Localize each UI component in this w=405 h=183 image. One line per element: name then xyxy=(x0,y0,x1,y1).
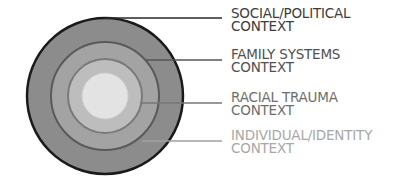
family-systems-label: FAMILY SYSTEMS CONTEXT xyxy=(231,48,340,73)
label-line-2: CONTEXT xyxy=(231,20,350,33)
context-diagram: SOCIAL/POLITICAL CONTEXT FAMILY SYSTEMS … xyxy=(0,0,405,183)
label-line-2: CONTEXT xyxy=(231,104,338,117)
label-line-2: CONTEXT xyxy=(231,142,372,155)
social-political-label: SOCIAL/POLITICAL CONTEXT xyxy=(231,7,350,32)
racial-trauma-label: RACIAL TRAUMA CONTEXT xyxy=(231,91,338,116)
label-line-2: CONTEXT xyxy=(231,61,340,74)
individual-identity-label: INDIVIDUAL/IDENTITY CONTEXT xyxy=(231,129,372,154)
individual-identity-ring xyxy=(82,73,128,119)
